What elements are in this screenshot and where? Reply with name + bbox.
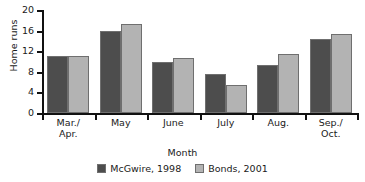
bar (205, 74, 226, 113)
bar (310, 39, 331, 113)
bar-group (100, 10, 142, 113)
legend-label: McGwire, 1998 (110, 163, 181, 174)
bar (68, 56, 89, 113)
x-axis-label-line: July (197, 117, 255, 128)
legend-swatch (97, 164, 106, 173)
bar (47, 56, 68, 113)
x-axis-label-line: Aug. (249, 117, 307, 128)
y-tick: 20 (37, 10, 44, 12)
legend-swatch (195, 164, 204, 173)
plot-area: 048121620 (42, 10, 357, 113)
y-tick-label: 12 (22, 45, 34, 56)
x-axis-label: June (144, 117, 202, 128)
y-tick: 8 (37, 72, 44, 74)
legend-item: McGwire, 1998 (97, 163, 181, 174)
x-axis-label: July (197, 117, 255, 128)
y-axis-title: Home runs (8, 6, 19, 86)
y-tick-label: 20 (22, 4, 34, 15)
bar-group (152, 10, 194, 113)
legend-item: Bonds, 2001 (195, 163, 268, 174)
chart-legend: McGwire, 1998Bonds, 2001 (0, 163, 365, 174)
x-axis-title: Month (0, 147, 365, 158)
x-axis-label-line: Sep./ (302, 117, 360, 128)
y-tick-label: 0 (28, 107, 34, 118)
bar-group (257, 10, 299, 113)
bar (226, 85, 247, 113)
bar (331, 34, 352, 113)
x-axis-label-line: June (144, 117, 202, 128)
y-tick-label: 8 (28, 66, 34, 77)
x-axis-label-line: Mar./ (39, 117, 97, 128)
bar-group (205, 10, 247, 113)
y-axis-line (42, 10, 44, 113)
x-axis-label-line: Apr. (39, 128, 97, 139)
y-tick-label: 16 (22, 25, 34, 36)
x-axis-label: Mar./Apr. (39, 117, 97, 139)
bar (100, 31, 121, 113)
bar-group (310, 10, 352, 113)
y-tick: 12 (37, 51, 44, 53)
bar (152, 62, 173, 113)
x-axis-label: May (92, 117, 150, 128)
home-runs-bar-chart: Home runs 048121620 Mar./Apr.MayJuneJuly… (0, 0, 365, 182)
bar-group (47, 10, 89, 113)
x-axis-label-line: Oct. (302, 128, 360, 139)
x-axis-label: Aug. (249, 117, 307, 128)
legend-label: Bonds, 2001 (208, 163, 268, 174)
y-tick: 4 (37, 92, 44, 94)
y-tick-label: 4 (28, 86, 34, 97)
bar (257, 65, 278, 113)
x-axis-label: Sep./Oct. (302, 117, 360, 139)
x-axis-label-line: May (92, 117, 150, 128)
y-tick: 16 (37, 31, 44, 33)
bar (173, 58, 194, 113)
bar (278, 54, 299, 113)
bar (121, 24, 142, 113)
